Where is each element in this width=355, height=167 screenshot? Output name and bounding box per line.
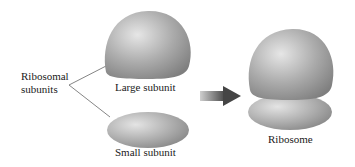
arrow-icon — [200, 86, 241, 106]
large-subunit-label: Large subunit — [115, 81, 176, 94]
connector-lines — [69, 65, 110, 117]
label-line-1: Ribosomal — [21, 70, 69, 83]
small-subunit-shape — [107, 112, 189, 148]
small-subunit-label: Small subunit — [115, 146, 176, 159]
ribosome-shape — [248, 29, 333, 130]
label-line-2: subunits — [21, 83, 69, 96]
ribosome-label: Ribosome — [268, 133, 313, 146]
large-subunit-shape — [105, 11, 191, 79]
ribosomal-subunits-label: Ribosomal subunits — [21, 70, 69, 96]
